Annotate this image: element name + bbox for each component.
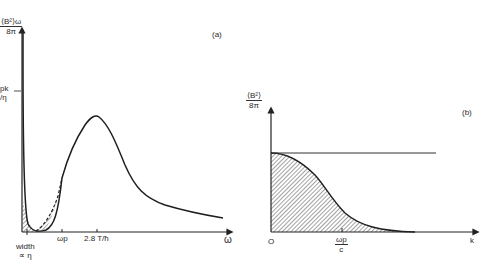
panel-b-x-label: k	[470, 236, 474, 245]
panel-b-label: (b)	[462, 108, 472, 117]
panel-b-shade	[271, 153, 415, 232]
panel-b-tick-omega-p-c: ωp c	[335, 235, 348, 254]
figure-canvas	[0, 0, 504, 268]
panel-b-origin: O	[268, 237, 274, 246]
panel-a-tick-width-prop: ∝ η	[19, 251, 32, 260]
panel-a-y-label: ⟨B²⟩ω 8π	[0, 17, 22, 36]
panel-b-y-label: ⟨B²⟩ 8π	[246, 91, 262, 110]
panel-a-label: (a)	[212, 30, 222, 39]
panel-a-curve	[23, 30, 223, 231]
panel-a	[14, 30, 230, 235]
panel-a-tick-omega-p: ωp	[57, 234, 68, 243]
panel-a-tick-2-8: 2.8 T/ħ	[84, 234, 109, 243]
panel-a-pk-den: /η	[0, 93, 7, 102]
panel-a-pk-label: pk	[0, 84, 8, 93]
panel-a-tick-width: width	[16, 242, 35, 251]
panel-a-x-label: ω	[224, 235, 232, 244]
panel-b	[271, 110, 476, 232]
